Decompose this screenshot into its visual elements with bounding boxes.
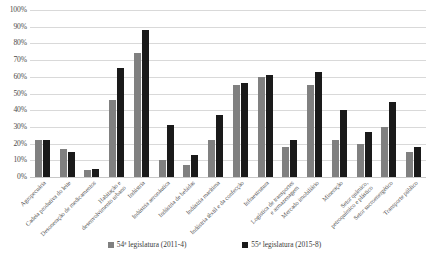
y-axis-tick-label: 80% [13, 40, 27, 48]
y-axis-tick-label: 50% [13, 90, 27, 98]
bar-group [327, 10, 352, 177]
legend-swatch-icon [242, 242, 248, 248]
bar-group [377, 10, 402, 177]
y-axis-tick-label: 0% [17, 173, 27, 181]
bar [109, 100, 116, 177]
bar [266, 75, 273, 177]
bar-group [401, 10, 426, 177]
y-axis-tick-label: 20% [13, 140, 27, 148]
y-axis-tick-label: 90% [13, 23, 27, 31]
legend-item[interactable]: 54ª legislatura (2011-4) [108, 241, 187, 248]
x-axis-label-slot: Mercado imobiliário [302, 177, 327, 235]
bar [68, 152, 75, 177]
y-axis-tick-label: 10% [13, 157, 27, 165]
bar [167, 125, 174, 177]
bar [307, 85, 314, 177]
bar [216, 115, 223, 177]
bar [84, 170, 91, 177]
x-axis-labels: AgropecuáriaCadeia produtiva do leiteDes… [30, 177, 426, 235]
bar [290, 140, 297, 177]
bar [315, 72, 322, 177]
legend-swatch-icon [108, 242, 114, 248]
x-axis-label: Indústria [126, 179, 146, 199]
bar [92, 169, 99, 177]
y-axis-tick-label: 70% [13, 56, 27, 64]
bar [134, 53, 141, 177]
bar [414, 147, 421, 177]
x-axis-label-slot: Habitação edesenvolvimento urbano [104, 177, 129, 235]
bar [406, 152, 413, 177]
bar [389, 102, 396, 177]
bar [241, 83, 248, 177]
bar-chart: 0%10%20%30%40%50%60%70%80%90%100% Agrope… [0, 0, 429, 259]
legend-label: 55ª legislatura (2015-8) [251, 241, 321, 248]
bar [365, 132, 372, 177]
bar [159, 160, 166, 177]
bar [142, 30, 149, 177]
bar [183, 165, 190, 177]
bar-group [154, 10, 179, 177]
bar [43, 140, 50, 177]
y-axis-tick-label: 60% [13, 73, 27, 81]
bar-group [179, 10, 204, 177]
bar-group [228, 10, 253, 177]
legend-label: 54ª legislatura (2011-4) [117, 241, 187, 248]
chart-legend: 54ª legislatura (2011-4)55ª legislatura … [0, 238, 429, 252]
x-axis-label-slot: Transporte público [401, 177, 426, 235]
bar-group [253, 10, 278, 177]
bar-group [55, 10, 80, 177]
bar-groups [30, 10, 426, 177]
bar-group [278, 10, 303, 177]
bar [35, 140, 42, 177]
bar-group [203, 10, 228, 177]
bar [233, 85, 240, 177]
bar [340, 110, 347, 177]
bar [282, 147, 289, 177]
bar-group [302, 10, 327, 177]
bar [117, 68, 124, 177]
bar [191, 155, 198, 177]
bar-group [104, 10, 129, 177]
y-axis-tick-label: 30% [13, 123, 27, 131]
bar-group [129, 10, 154, 177]
bar [208, 140, 215, 177]
bar [60, 149, 67, 177]
legend-item[interactable]: 55ª legislatura (2015-8) [242, 241, 321, 248]
bar [258, 77, 265, 177]
bar [332, 140, 339, 177]
x-axis-label-slot: Indústria têxtil e da confecção [228, 177, 253, 235]
plot-area [30, 10, 426, 177]
bar [381, 127, 388, 177]
bar [357, 144, 364, 177]
y-axis: 0%10%20%30%40%50%60%70%80%90%100% [0, 10, 30, 177]
bar-group [30, 10, 55, 177]
bar-group [352, 10, 377, 177]
y-axis-tick-label: 100% [10, 6, 27, 14]
bar-group [80, 10, 105, 177]
y-axis-tick-label: 40% [13, 106, 27, 114]
